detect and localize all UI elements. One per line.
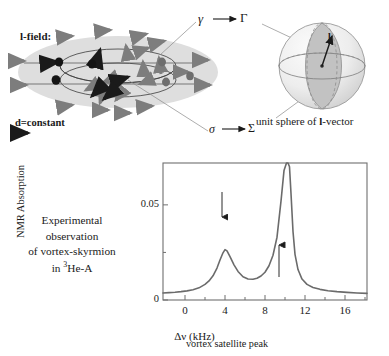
unit-sphere-caption-pre: unit sphere of [256,115,319,127]
lfield-skyrmion-diagram: l-field: d=constant γ Γ σ Σ l unit spher… [0,0,389,152]
x-tick-label: 8 [255,304,275,316]
diagram-graphics [0,0,389,152]
lfield-label: l-field: [20,31,51,42]
sigma-capital-label: Σ [248,122,255,134]
d-constant-label: d=constant [15,118,65,129]
x-tick-label: 16 [335,304,355,316]
unit-sphere-caption: unit sphere of l-vector [256,116,353,127]
x-tick-label: 4 [215,304,235,316]
y-tick-label: 0 [133,293,159,304]
nmr-absorption-chart: vortex satellite peak main peak [0,150,389,356]
gamma-capital-label: Γ [240,11,248,24]
figure-root: l-field: d=constant γ Γ σ Σ l unit spher… [0,0,389,356]
x-axis-label: Δν (kHz) [0,330,389,342]
y-axis-label: NMR Absorption [15,152,26,252]
x-tick-label: 12 [295,304,315,316]
unit-sphere-caption-post: -vector [322,115,353,127]
chart-graphics [0,150,389,356]
plot-frame [163,163,367,300]
y-tick-label: 0.05 [133,198,159,209]
x-tick-label: 0 [175,304,195,316]
sigma-small-label: σ [209,123,215,135]
unit-sphere [279,23,365,109]
l-vector-label: l [328,32,331,42]
x-axis-label-text: Δν (kHz) [174,330,214,342]
gamma-small-label: γ [198,12,203,25]
